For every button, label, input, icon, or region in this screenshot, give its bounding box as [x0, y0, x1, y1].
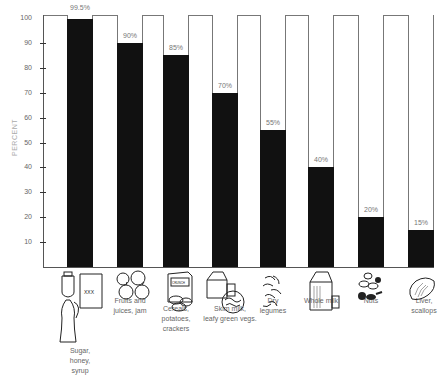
- bar: [163, 55, 189, 267]
- bar-frame: [408, 15, 434, 267]
- y-tick-label: 70: [6, 89, 32, 96]
- bar-value-label: 20%: [351, 206, 391, 213]
- liver-icon: [406, 275, 436, 309]
- bar-frame: [260, 15, 286, 267]
- bar-frame: [67, 15, 93, 267]
- y-axis: [43, 15, 44, 267]
- bar-chart: PERCENT 102030405060708090100 99.5%90%85…: [0, 0, 448, 386]
- y-tick-mark: [40, 167, 46, 168]
- y-tick-mark: [40, 43, 46, 44]
- bar-frame: [308, 15, 334, 267]
- y-tick-label: 10: [6, 238, 32, 245]
- bar-value-label: 90%: [110, 32, 150, 39]
- y-tick-label: 50: [6, 139, 32, 146]
- milk-carton-greens-icon: [205, 270, 251, 318]
- svg-text:CRUNCH: CRUNCH: [172, 281, 185, 285]
- y-tick-mark: [40, 143, 46, 144]
- fruit-icon: [114, 270, 154, 306]
- bar-value-label: 15%: [401, 219, 441, 226]
- bar-value-label: 40%: [301, 156, 341, 163]
- bar: [117, 43, 143, 267]
- y-tick-label: 80: [6, 64, 32, 71]
- bar: [408, 230, 434, 267]
- cereal-box-icon: CRUNCH: [164, 270, 198, 316]
- sugar-honey-syrup-icon: XXX: [56, 270, 106, 349]
- bar-value-label: 85%: [156, 44, 196, 51]
- bar: [67, 19, 93, 267]
- bar-frame: [212, 15, 238, 267]
- bar: [260, 130, 286, 267]
- y-tick-label: 90: [6, 39, 32, 46]
- svg-text:XXX: XXX: [84, 289, 95, 295]
- bar-value-label: 70%: [205, 82, 245, 89]
- y-tick-mark: [40, 118, 46, 119]
- x-axis: [43, 267, 434, 268]
- bar: [212, 93, 238, 267]
- y-tick-mark: [40, 68, 46, 69]
- nuts-icon: [356, 270, 384, 310]
- legumes-icon: [259, 272, 287, 316]
- bar-value-label: 99.5%: [60, 4, 100, 11]
- y-tick-label: 40: [6, 163, 32, 170]
- bar-frame: [163, 15, 189, 267]
- y-axis-label: PERCENT: [11, 119, 18, 156]
- y-tick-mark: [40, 242, 46, 243]
- whole-milk-icon: [306, 270, 340, 316]
- y-tick-mark: [40, 192, 46, 193]
- y-tick-mark: [40, 93, 46, 94]
- y-tick-label: 60: [6, 114, 32, 121]
- bar: [358, 217, 384, 267]
- bar: [308, 167, 334, 267]
- category-label: Sugar,honey,syrup: [45, 346, 115, 376]
- bar-frame: [117, 15, 143, 267]
- y-tick-mark: [40, 217, 46, 218]
- y-tick-label: 100: [6, 14, 32, 21]
- y-tick-label: 20: [6, 213, 32, 220]
- bar-value-label: 55%: [253, 119, 293, 126]
- y-tick-label: 30: [6, 188, 32, 195]
- bar-frame: [358, 15, 384, 267]
